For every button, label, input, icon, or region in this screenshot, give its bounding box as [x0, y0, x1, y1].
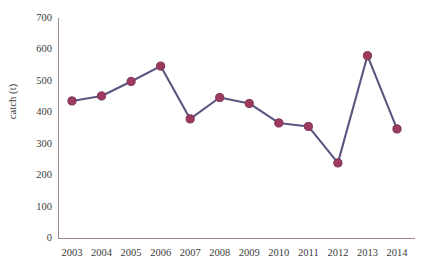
data-point-marker — [334, 159, 342, 167]
plot-area — [0, 0, 427, 272]
data-point-marker — [216, 93, 224, 101]
data-point-marker — [186, 115, 194, 123]
data-point-marker — [304, 122, 312, 130]
x-axis-tick-label: 2014 — [377, 247, 417, 259]
x-axis-tick-labels: 2003200420052006200720082009201020112012… — [0, 247, 427, 265]
data-line — [72, 56, 397, 163]
data-point-marker — [363, 52, 371, 60]
data-point-marker — [245, 99, 253, 107]
data-point-marker — [157, 62, 165, 70]
data-point-marker — [97, 92, 105, 100]
line-chart: catch (t) 0100200300400500600700 2003200… — [0, 0, 427, 272]
data-point-marker — [127, 77, 135, 85]
data-point-marker — [68, 97, 76, 105]
data-point-marker — [275, 119, 283, 127]
data-point-marker — [393, 125, 401, 133]
data-markers — [68, 52, 401, 167]
